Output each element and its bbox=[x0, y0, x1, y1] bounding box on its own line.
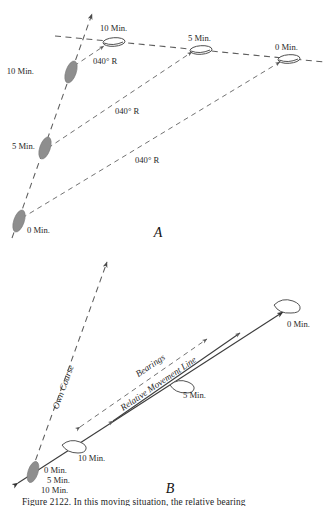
label-target-a-10min: 10 Min. bbox=[100, 23, 127, 33]
own-ship-b bbox=[25, 460, 41, 484]
target-ship-b-10min bbox=[62, 441, 86, 453]
panel-b-label: B bbox=[166, 481, 175, 496]
label-own-b-5min: 5 Min. bbox=[47, 475, 70, 485]
navigation-diagram: 10 Min. 5 Min. 0 Min. 10 Min. 5 Min. 0 M… bbox=[0, 0, 331, 506]
label-own-b-0min: 0 Min. bbox=[44, 465, 67, 475]
own-ship-a-0min bbox=[10, 208, 27, 233]
panel-b: 0 Min. 5 Min. 10 Min. 0 Min. 5 Min. 10 M… bbox=[18, 262, 310, 496]
figure-container: 10 Min. 5 Min. 0 Min. 10 Min. 5 Min. 0 M… bbox=[0, 0, 331, 506]
panel-a-label: A bbox=[153, 225, 163, 240]
own-ship-a-10min bbox=[62, 59, 79, 84]
target-ship-b-0min bbox=[274, 300, 300, 313]
own-course-line-a bbox=[12, 14, 92, 238]
label-own-b-10min: 10 Min. bbox=[41, 485, 68, 495]
label-target-a-5min: 5 Min. bbox=[188, 33, 211, 43]
label-own-a-10min: 10 Min. bbox=[7, 66, 34, 76]
own-ship-a-5min bbox=[36, 135, 53, 160]
label-bearing-a-2: 040° R bbox=[115, 106, 139, 116]
label-own-course: Own Course bbox=[51, 364, 76, 411]
label-bearing-a-1: 040° R bbox=[93, 56, 117, 66]
label-target-b-0min: 0 Min. bbox=[287, 319, 310, 329]
label-target-b-10min: 10 Min. bbox=[78, 453, 105, 463]
panel-a: 10 Min. 5 Min. 0 Min. 10 Min. 5 Min. 0 M… bbox=[7, 14, 325, 240]
label-bearing-a-3: 040° R bbox=[135, 155, 159, 165]
bearing-line-a-0min bbox=[22, 62, 280, 218]
figure-caption: Figure 2122. In this moving situation, t… bbox=[22, 497, 246, 506]
label-target-b-5min: 5 Min. bbox=[183, 390, 206, 400]
label-target-a-0min: 0 Min. bbox=[275, 42, 298, 52]
figure-caption-clip: Figure 2122. In this moving situation, t… bbox=[0, 497, 331, 506]
label-own-a-0min: 0 Min. bbox=[27, 225, 50, 235]
label-own-a-5min: 5 Min. bbox=[12, 141, 35, 151]
